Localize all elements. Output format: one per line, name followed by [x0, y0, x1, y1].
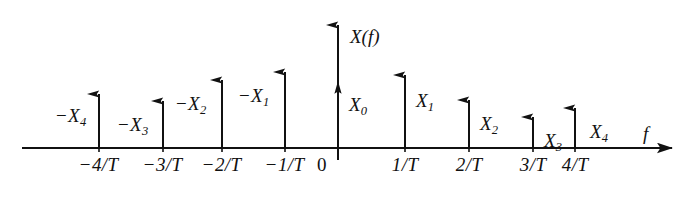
amplitude-label-neg-2: −X2	[176, 94, 206, 116]
amplitude-label-pos-3: X3	[544, 131, 562, 153]
tick-label-neg-3: −3/T	[144, 155, 183, 174]
amplitude-label-neg-4: −X4	[56, 106, 86, 128]
tick-label-neg-2: −2/T	[203, 155, 242, 174]
tick-label-neg-4: −4/T	[80, 155, 119, 174]
amplitude-label-pos-2: X2	[480, 114, 498, 136]
spectrum-figure: −4/T−X4−3/T−X3−2/T−X2−1/T−X1X01/TX12/TX2…	[0, 0, 683, 203]
amplitude-label-neg-3: −X3	[118, 115, 148, 137]
amplitude-label-pos-4: X4	[590, 122, 608, 144]
tick-label-pos-3: 3/T	[520, 155, 546, 174]
origin-label: 0	[317, 155, 327, 174]
tick-label-pos-2: 2/T	[456, 155, 482, 174]
tick-label-pos-4: 4/T	[562, 155, 588, 174]
vertical-axis-label: X(f)	[350, 27, 380, 46]
horizontal-axis-label: f	[643, 124, 648, 143]
amplitude-label-zero: X0	[349, 95, 367, 117]
tick-label-pos-1: 1/T	[392, 155, 418, 174]
amplitude-label-pos-1: X1	[416, 91, 434, 113]
amplitude-label-neg-1: −X1	[239, 86, 269, 108]
tick-label-neg-1: −1/T	[266, 155, 305, 174]
